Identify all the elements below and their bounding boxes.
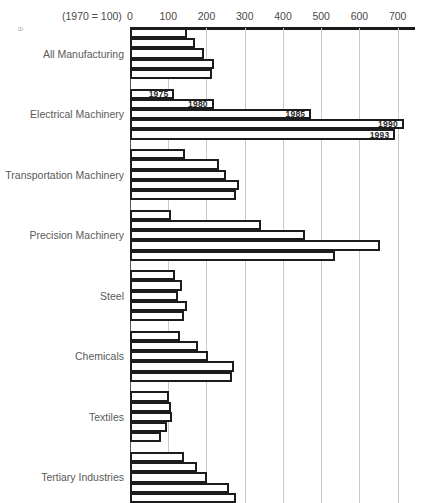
bar	[130, 341, 198, 351]
bar	[130, 210, 171, 220]
bar	[130, 149, 185, 159]
bar	[130, 361, 234, 371]
bar	[130, 422, 167, 432]
bar	[130, 28, 187, 38]
bar	[130, 170, 226, 180]
bar: 1980	[130, 99, 214, 109]
bar	[130, 291, 178, 301]
bar	[130, 159, 219, 169]
bar	[130, 180, 239, 190]
bar	[130, 240, 380, 250]
bar-year-label: 1993	[370, 130, 390, 140]
bar	[130, 230, 305, 240]
gridline-700	[398, 28, 399, 503]
x-tick-label-0: 0	[127, 10, 133, 22]
bar	[130, 48, 204, 58]
category-label: Transportation Machinery	[0, 169, 124, 181]
bar	[130, 69, 212, 79]
bar	[130, 301, 187, 311]
bar	[130, 351, 208, 361]
bar	[130, 402, 171, 412]
bar	[130, 220, 261, 230]
bar	[130, 483, 229, 493]
bar	[130, 472, 207, 482]
gridline-500	[321, 28, 322, 503]
category-label: Electrical Machinery	[0, 108, 124, 120]
bar-year-label: 1985	[286, 109, 306, 119]
bar	[130, 432, 161, 442]
bar-year-label: 1975	[149, 89, 169, 99]
bar	[130, 311, 184, 321]
axis-index-note: (1970 = 100)	[62, 10, 122, 22]
corner-mark: ə	[16, 26, 26, 31]
bar-chart: ə (1970 = 100) 0100200300400500600700 19…	[0, 0, 426, 503]
x-tick-label-400: 400	[274, 10, 292, 22]
category-label: Precision Machinery	[0, 229, 124, 241]
bar	[130, 391, 169, 401]
gridline-300	[245, 28, 246, 503]
bar	[130, 38, 195, 48]
bar-year-label: 1980	[188, 99, 208, 109]
bar	[130, 270, 175, 280]
bar	[130, 493, 236, 503]
bar	[130, 280, 182, 290]
category-label: Tertiary Industries	[0, 471, 124, 483]
x-tick-label-200: 200	[198, 10, 216, 22]
bar	[130, 372, 232, 382]
bar: 1975	[130, 89, 174, 99]
bar	[130, 190, 236, 200]
category-label: All Manufacturing	[0, 48, 124, 60]
category-label: Textiles	[0, 411, 124, 423]
bar	[130, 251, 335, 261]
gridline-600	[359, 28, 360, 503]
x-tick-label-100: 100	[159, 10, 177, 22]
category-label: Steel	[0, 290, 124, 302]
category-label: Chemicals	[0, 350, 124, 362]
bar: 1993	[130, 129, 395, 139]
x-tick-label-300: 300	[236, 10, 254, 22]
bar	[130, 331, 180, 341]
x-tick-label-600: 600	[351, 10, 369, 22]
x-tick-label-700: 700	[389, 10, 407, 22]
plot-area: 19751980198519901993	[130, 28, 413, 503]
bar-year-label: 1990	[378, 119, 398, 129]
bar	[130, 462, 197, 472]
bar	[130, 412, 172, 422]
bar	[130, 452, 184, 462]
bar: 1990	[130, 119, 404, 129]
gridline-400	[283, 28, 284, 503]
bar	[130, 59, 214, 69]
bar: 1985	[130, 109, 311, 119]
x-tick-label-500: 500	[312, 10, 330, 22]
